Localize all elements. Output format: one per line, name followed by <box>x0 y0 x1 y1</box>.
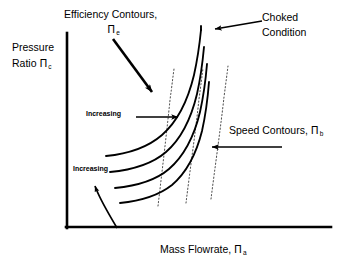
increasing-speed-label: Increasing <box>73 165 108 174</box>
y-axis-label-line1: Pressure <box>12 41 54 53</box>
efficiency-contours-symbol: Πe <box>64 23 157 37</box>
choked-condition-label-line1: Choked <box>262 11 298 23</box>
x-axis-label: Mass Flowrate, Πa <box>160 243 247 257</box>
y-axis-label-line2-text: Ratio <box>12 57 39 69</box>
pi-subscript-pressure-ratio: c <box>47 63 51 70</box>
y-axis-label-line2: Ratio Πc <box>12 57 54 71</box>
choked-condition-label: Choked Condition <box>262 11 306 39</box>
efficiency-pointer-arrow <box>113 39 152 92</box>
efficiency-contours-label: Efficiency Contours, Πe <box>64 8 157 37</box>
speed-contours-label: Speed Contours, Πb <box>229 124 323 138</box>
pi-symbol-mass-flowrate: Π <box>234 243 242 255</box>
efficiency-contours-label-line1: Efficiency Contours, <box>64 8 157 20</box>
pi-subscript-efficiency: e <box>115 29 120 36</box>
increasing-speed-pointer-arrow <box>95 186 117 228</box>
choked-pointer-arrow <box>215 21 262 29</box>
pi-subscript-speed: b <box>319 130 324 137</box>
y-axis-label: Pressure Ratio Πc <box>12 41 54 71</box>
x-axis-label-text: Mass Flowrate, <box>160 243 234 255</box>
pi-symbol-speed: Π <box>311 124 319 136</box>
compressor-map-figure: Efficiency Contours, Πe Pressure Ratio Π… <box>0 0 350 264</box>
pi-subscript-mass-flowrate: a <box>242 249 247 256</box>
choked-condition-label-line2: Condition <box>262 26 306 39</box>
speed-contours-label-text: Speed Contours, <box>229 124 311 136</box>
efficiency-contour-3 <box>211 66 228 199</box>
increasing-efficiency-label: Increasing <box>86 110 121 119</box>
